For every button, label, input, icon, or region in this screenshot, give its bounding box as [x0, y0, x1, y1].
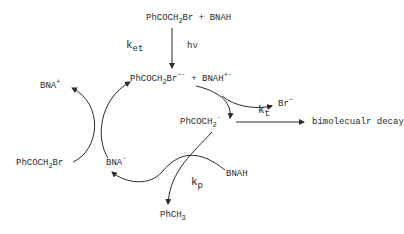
bnah-donor-label: BNAH: [226, 169, 248, 179]
electron-transfer-arrow: [101, 82, 130, 158]
toluene-arrow: [168, 132, 212, 204]
light-label: hν: [187, 41, 198, 51]
reactants-label: PhCOCH2Br + BNAH: [146, 13, 231, 23]
termination-product-label: bimolecualr decay: [312, 117, 404, 127]
rate-constant-p: kp: [191, 177, 203, 187]
rate-constant-t: kt: [258, 105, 270, 115]
rate-constant-et: ket: [126, 40, 143, 50]
toluene-label: PhCH3: [160, 210, 186, 220]
radical-label: PhCOCH2·: [180, 117, 221, 127]
bna-cation-arrow: [72, 88, 95, 162]
substrate-label: PhCOCH2Br: [16, 158, 63, 168]
bna-radical-label: BNA·: [106, 158, 126, 168]
hydrogen-transfer-arc: [112, 155, 225, 182]
bromide-label: Br−: [278, 99, 293, 109]
radical-ion-pair-label: PhCOCH2Br−· + BNAH+·: [130, 74, 232, 84]
bna-cation-label: BNA+: [40, 81, 60, 91]
fragmentation-arrow: [196, 86, 230, 118]
